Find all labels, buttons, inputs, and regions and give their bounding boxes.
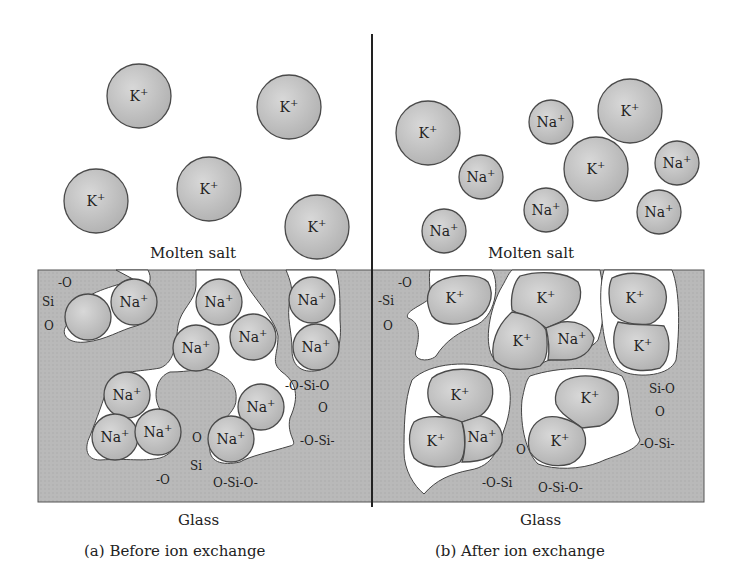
silicate-label: O [655, 405, 665, 419]
salt-ions-a: K+ K+ K+ K+ K+ [64, 64, 349, 259]
ion-na: Na+ [293, 324, 339, 370]
silicate-label: Si [190, 459, 202, 473]
silicate-label: Si [42, 295, 54, 309]
ion-k: K+ [177, 157, 241, 221]
silicate-label: O-Si-O- [213, 476, 258, 490]
silicate-label: O [383, 319, 393, 333]
silicate-label: Si-O [649, 382, 675, 396]
molten-salt-label-a: Molten salt [150, 244, 236, 262]
ion-k: K+ [564, 137, 628, 201]
ion-na: Na+ [459, 155, 503, 199]
ion-k: K+ [285, 195, 349, 259]
ion-k: K+ [64, 169, 128, 233]
ion-na: Na+ [208, 416, 254, 462]
caption-a: (a) Before ion exchange [84, 542, 265, 560]
ion-na: Na+ [92, 414, 138, 460]
ion-na: Na+ [529, 100, 573, 144]
molten-salt-label-b: Molten salt [488, 244, 574, 262]
silicate-label: O-Si-O- [538, 481, 583, 495]
ion-na: Na+ [111, 279, 157, 325]
glass-label-b: Glass [520, 511, 561, 529]
ion-na: Na+ [637, 190, 681, 234]
silicate-label: -O-Si [482, 476, 513, 490]
ion-k: K+ [257, 75, 321, 139]
ion-na: Na+ [135, 409, 181, 455]
ion-na: Na+ [655, 141, 699, 185]
glass-label-a: Glass [178, 511, 219, 529]
silicate-label: O [516, 443, 526, 457]
ion-k: K+ [396, 101, 460, 165]
silicate-label: -O-Si-O [285, 379, 330, 393]
silicate-label: O [44, 319, 54, 333]
ion-na: Na+ [173, 325, 219, 371]
ion-exchange-diagram: K+ K+ K+ K+ K+ Na+ Na+ Na+ Na+ Na+ Na+ N… [0, 0, 741, 567]
silicate-label: O [192, 431, 202, 445]
silicate-label: -O [156, 473, 170, 487]
ion-k: K+ [107, 64, 171, 128]
silicate-label: -Si [378, 294, 394, 308]
silicate-label: -O [398, 276, 412, 290]
ion-na: Na+ [289, 277, 335, 323]
salt-ions-b: K+ Na+ Na+ Na+ K+ K+ Na+ Na+ Na+ [396, 79, 699, 253]
caption-b: (b) After ion exchange [435, 542, 605, 560]
ion-na: Na+ [422, 209, 466, 253]
ion-na: Na+ [196, 279, 242, 325]
ion-k: K+ [598, 79, 662, 143]
ion-na: Na+ [524, 188, 568, 232]
silicate-label: -O-Si- [300, 434, 335, 448]
silicate-label: O [318, 401, 328, 415]
ion-na: Na+ [104, 372, 150, 418]
ion-na: Na+ [230, 314, 276, 360]
silicate-label: -O [58, 276, 72, 290]
silicate-label: -O-Si- [640, 437, 675, 451]
ion-vacant [65, 294, 111, 340]
